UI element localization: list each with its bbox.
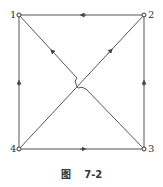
node-label-3: 3 [148, 144, 154, 154]
node-1 [17, 13, 21, 17]
node-label-2: 2 [148, 10, 154, 20]
node-2 [142, 13, 146, 17]
figure-caption: 图 7-2 [0, 166, 163, 181]
node-label-1: 1 [10, 10, 16, 20]
node-4 [17, 147, 21, 151]
node-3 [142, 147, 146, 151]
caption-prefix: 图 [61, 169, 71, 180]
node-label-4: 4 [10, 144, 16, 154]
directed-graph [0, 0, 163, 187]
caption-number: 7-2 [84, 169, 102, 180]
